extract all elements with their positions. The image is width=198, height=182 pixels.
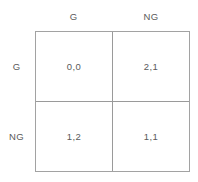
column-header-g: G [35,10,112,24]
payoff-cell-ng-ng: 1,1 [113,102,189,171]
payoff-cell-ng-g: 1,2 [36,102,112,171]
payoff-cell-g-g: 0,0 [36,32,112,101]
payoff-grid: 0,0 2,1 1,2 1,1 [35,31,190,172]
payoff-cell-g-ng: 2,1 [113,32,189,101]
column-header-ng: NG [112,10,190,24]
payoff-matrix: G NG G NG 0,0 2,1 1,2 1,1 [0,0,198,182]
row-header-g: G [0,60,33,74]
row-header-ng: NG [0,130,33,144]
